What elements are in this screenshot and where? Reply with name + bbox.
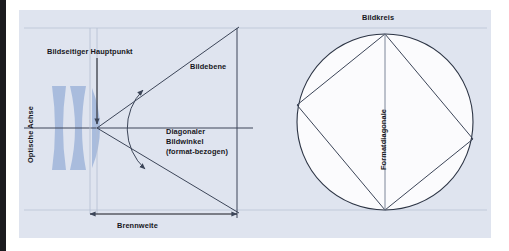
fov-ray-upper xyxy=(97,27,239,128)
label-image-side-principal-point: Bildseitiger Hauptpunkt xyxy=(47,47,133,57)
label-optical-axis: Optische Achse xyxy=(26,106,36,163)
diagram-vector-layer xyxy=(0,0,509,251)
label-image-plane: Bildebene xyxy=(190,62,226,72)
diagonal-angle-arc xyxy=(127,90,145,169)
diagram-canvas: Bildseitiger Hauptpunkt Bildebene Diagon… xyxy=(0,0,509,251)
label-image-circle: Bildkreis xyxy=(362,13,394,23)
label-focal-length: Brennweite xyxy=(117,221,158,231)
label-format-diagonal: Formatdiagonale xyxy=(379,109,389,170)
label-diagonal-angle-of-view: Diagonaler Bildwinkel (format-bezogen) xyxy=(166,127,230,156)
